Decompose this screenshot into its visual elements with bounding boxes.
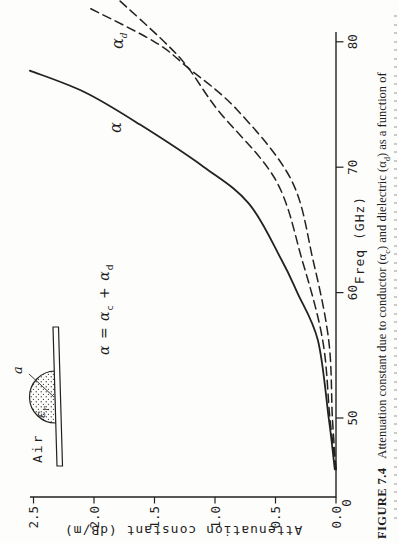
inset-epsilon-sub: r xyxy=(41,407,51,411)
y-axis-title: Attenuation constant (dB/m) xyxy=(48,520,318,538)
x-tick-label: 80 xyxy=(345,34,360,49)
curve-label-alpha-d: αd xyxy=(108,32,129,49)
inset-ground-plane xyxy=(53,327,63,466)
inset-air-label: Air xyxy=(30,434,45,463)
caption-sub-c: c xyxy=(382,250,392,254)
x-tick-label: 70 xyxy=(345,160,360,175)
curve-label-alpha-d-base: α xyxy=(108,38,127,49)
caption-sub-d: d xyxy=(382,157,392,161)
x-tick-label: 60 xyxy=(345,285,360,300)
curve-alpha_c xyxy=(119,0,336,469)
curve-alpha_d xyxy=(87,7,336,470)
plus-sign: + xyxy=(96,286,112,299)
axes xyxy=(30,32,336,497)
caption-text-1: Attenuation constant due to conductor (α xyxy=(375,254,389,459)
curve-alpha_total xyxy=(30,71,335,470)
equals-sign: = xyxy=(96,326,112,339)
equation-alpha: α xyxy=(96,345,112,355)
curve-label-alpha: α xyxy=(106,122,125,133)
rotated-figure: 5060708000.00.51.01.52.02.5 α = αc + αd … xyxy=(0,0,399,543)
figure-caption: FIGURE 7.4Attenuation constant due to co… xyxy=(375,2,392,539)
x-axis-title: Freq (GHz) xyxy=(352,195,367,285)
equation-sub-d: d xyxy=(105,264,115,271)
caption-text-3: ) as a function of xyxy=(375,72,389,157)
equation-sub-c: c xyxy=(105,304,115,310)
caption-text-2: ) and dielectric (α xyxy=(375,161,389,250)
x-tick-label: 50 xyxy=(345,410,360,425)
attenuation-chart: 5060708000.00.51.01.52.02.5 xyxy=(0,0,399,543)
equation-alpha-d: α xyxy=(96,270,112,280)
y-tick-label: 2.5 xyxy=(26,506,41,529)
scanned-figure-page: { "page": {"background": "#fdfdfc", "ink… xyxy=(0,0,399,543)
curve-label-alpha-d-sub: d xyxy=(119,32,129,38)
inset-epsilon: ε xyxy=(33,411,48,418)
alpha-sum-equation: α = αc + αd xyxy=(96,264,115,355)
caption-clipped-second-line xyxy=(394,14,397,519)
inset-epsilon-r-label: εr xyxy=(33,407,51,418)
inset-radius-label: a xyxy=(10,366,25,374)
equation-alpha-c: α xyxy=(96,310,112,320)
figure-number: FIGURE 7.4 xyxy=(375,468,389,539)
y-tick-label: 0.0 xyxy=(329,506,344,529)
